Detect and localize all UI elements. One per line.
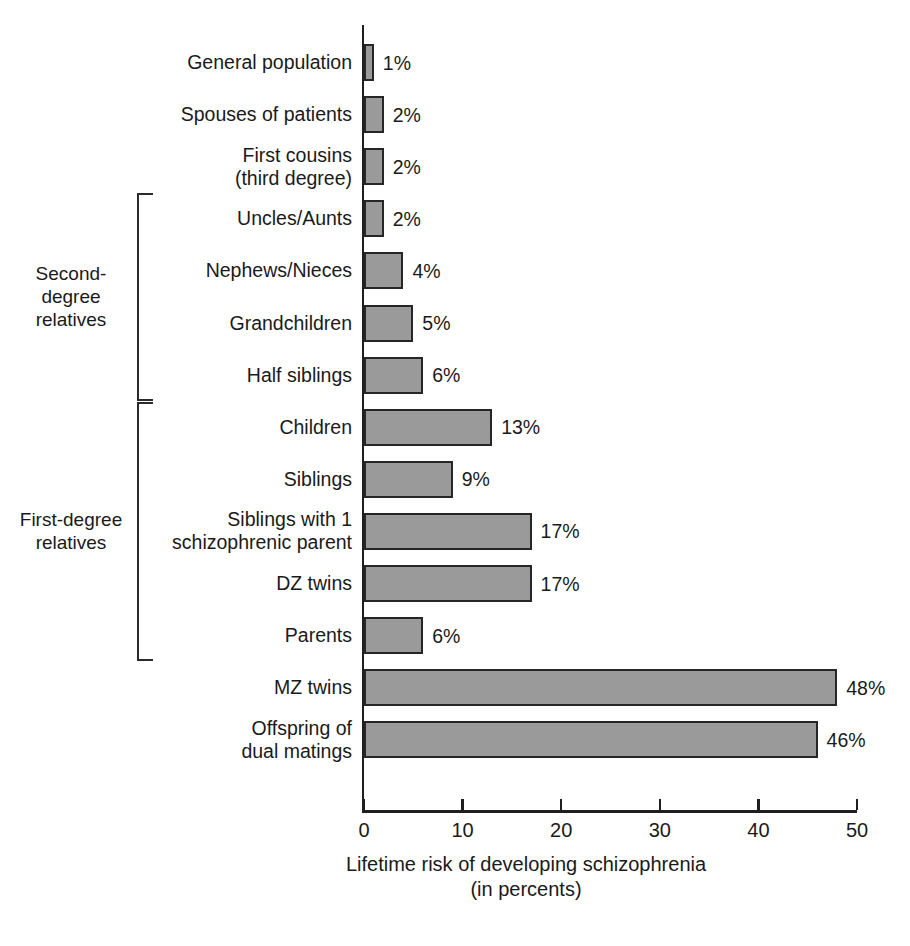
bar-value-label: 2% — [393, 158, 421, 178]
group-bracket — [137, 402, 153, 661]
bar-value-label: 48% — [846, 679, 885, 699]
bar-chart: Second- degree relativesFirst-degree rel… — [0, 0, 910, 946]
bar — [364, 409, 492, 446]
bar — [364, 44, 374, 81]
bar-value-label: 6% — [432, 627, 460, 647]
x-axis-tick — [856, 799, 859, 810]
bar — [364, 565, 532, 602]
bar — [364, 305, 413, 342]
group-bracket — [137, 193, 153, 400]
bar-value-label: 9% — [462, 470, 490, 490]
category-label: Nephews/Nieces — [206, 259, 352, 282]
bar — [364, 669, 837, 706]
bar — [364, 513, 532, 550]
category-label: Half siblings — [247, 364, 352, 387]
category-label: DZ twins — [276, 572, 352, 595]
bar — [364, 461, 453, 498]
category-label: Siblings with 1 schizophrenic parent — [172, 508, 352, 554]
category-label: Children — [279, 416, 352, 439]
bar-value-label: 17% — [541, 575, 580, 595]
x-axis-tick-label: 30 — [630, 820, 690, 840]
bar-value-label: 2% — [393, 106, 421, 126]
bar — [364, 200, 384, 237]
category-label: Siblings — [284, 468, 352, 491]
x-axis-tick — [461, 799, 464, 810]
bar-value-label: 2% — [393, 210, 421, 230]
group-label: First-degree relatives — [11, 508, 131, 554]
bar-value-label: 17% — [541, 522, 580, 542]
x-axis-tick — [363, 799, 366, 810]
x-axis-tick — [659, 799, 662, 810]
bar-value-label: 5% — [422, 314, 450, 334]
bar — [364, 252, 403, 289]
category-label: Parents — [285, 624, 352, 647]
category-label: Grandchildren — [230, 312, 352, 335]
x-axis-tick-label: 50 — [827, 820, 887, 840]
bar — [364, 148, 384, 185]
category-label: Spouses of patients — [181, 103, 352, 126]
x-axis-tick-label: 40 — [728, 820, 788, 840]
bar-value-label: 1% — [383, 54, 411, 74]
category-label: Offspring of dual matings — [241, 717, 352, 763]
bar-value-label: 13% — [501, 418, 540, 438]
bar — [364, 721, 818, 758]
bar — [364, 96, 384, 133]
x-axis-title: Lifetime risk of developing schizophreni… — [155, 852, 897, 902]
category-label: First cousins (third degree) — [235, 144, 352, 190]
x-axis-line — [362, 810, 858, 813]
x-axis-tick — [757, 799, 760, 810]
bar-value-label: 4% — [412, 262, 440, 282]
bar-value-label: 6% — [432, 366, 460, 386]
bar-value-label: 46% — [827, 731, 866, 751]
group-label: Second- degree relatives — [11, 262, 131, 331]
x-axis-tick-label: 0 — [334, 820, 394, 840]
category-label: MZ twins — [274, 676, 352, 699]
category-label: General population — [187, 51, 352, 74]
x-axis-tick-label: 10 — [433, 820, 493, 840]
bar — [364, 617, 423, 654]
x-axis-tick-label: 20 — [531, 820, 591, 840]
category-label: Uncles/Aunts — [237, 207, 352, 230]
bar — [364, 357, 423, 394]
y-axis-line — [362, 25, 365, 810]
x-axis-tick — [560, 799, 563, 810]
